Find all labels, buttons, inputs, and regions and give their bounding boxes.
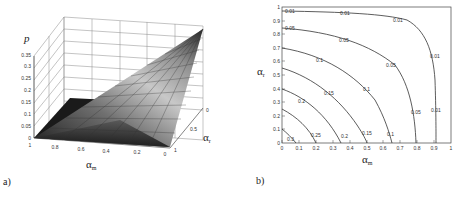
svg-text:0.25: 0.25 [311, 132, 321, 138]
contour-plot: 0 0.1 0.2 0.3 0.4 0.5 0.6 0.7 0.8 0.9 1 … [235, 0, 470, 199]
y-axis-label: αr [257, 65, 265, 78]
svg-text:0.8: 0.8 [52, 144, 59, 150]
z-axis-ticks: 0 0.05 0.1 0.15 0.2 0.25 0.3 0.35 [21, 52, 31, 141]
svg-text:0.15: 0.15 [21, 99, 31, 105]
svg-text:0.3: 0.3 [287, 136, 294, 142]
svg-text:0.05: 0.05 [339, 37, 349, 43]
svg-text:0.05: 0.05 [386, 62, 396, 68]
svg-text:0.01: 0.01 [285, 8, 295, 14]
svg-text:1: 1 [174, 147, 177, 153]
svg-text:0: 0 [281, 145, 284, 151]
svg-text:0.01: 0.01 [340, 10, 350, 16]
svg-text:0.2: 0.2 [273, 113, 280, 119]
svg-text:0.2: 0.2 [298, 98, 305, 104]
svg-text:0.5: 0.5 [190, 126, 197, 132]
svg-text:0.1: 0.1 [24, 111, 31, 117]
x-axis-label: αm [362, 153, 373, 166]
contour-plot-panel: 0 0.1 0.2 0.3 0.4 0.5 0.6 0.7 0.8 0.9 1 … [235, 0, 470, 199]
svg-text:0.05: 0.05 [411, 109, 421, 115]
surface-plot-panel: 0 0.05 0.1 0.15 0.2 0.25 0.3 0.35 1 0.8 … [0, 0, 235, 199]
svg-text:0.2: 0.2 [341, 133, 348, 139]
svg-text:0.5: 0.5 [364, 145, 371, 151]
svg-text:0.05: 0.05 [285, 25, 295, 31]
svg-text:0.35: 0.35 [21, 52, 31, 58]
svg-text:0.6: 0.6 [380, 145, 387, 151]
svg-text:0: 0 [164, 151, 167, 157]
svg-text:0.8: 0.8 [273, 31, 280, 37]
surface-plot: 0 0.05 0.1 0.15 0.2 0.25 0.3 0.35 1 0.8 … [0, 0, 235, 199]
svg-text:0.3: 0.3 [330, 145, 337, 151]
svg-text:0.6: 0.6 [78, 146, 85, 152]
svg-text:0.1: 0.1 [387, 131, 394, 137]
svg-text:0.01: 0.01 [430, 53, 440, 59]
x-axis-label: αm [86, 158, 97, 171]
svg-text:1: 1 [450, 145, 453, 151]
svg-text:0.1: 0.1 [296, 145, 303, 151]
svg-text:0.15: 0.15 [324, 90, 334, 96]
svg-text:0.6: 0.6 [273, 58, 280, 64]
svg-text:0.7: 0.7 [273, 45, 280, 51]
panel-label-a: a) [3, 176, 11, 187]
svg-text:0.2: 0.2 [313, 145, 320, 151]
svg-text:0.2: 0.2 [24, 87, 31, 93]
svg-text:0.05: 0.05 [21, 123, 31, 129]
svg-text:0.01: 0.01 [393, 17, 403, 23]
svg-text:0.7: 0.7 [397, 145, 404, 151]
y-axis-ticks: 0 0.1 0.2 0.3 0.4 0.5 0.6 0.7 0.8 0.9 1 [273, 4, 280, 146]
svg-text:0.5: 0.5 [273, 72, 280, 78]
svg-text:0: 0 [277, 140, 280, 146]
svg-text:0.3: 0.3 [273, 99, 280, 105]
svg-text:0.2: 0.2 [134, 149, 141, 155]
svg-text:0.9: 0.9 [431, 145, 438, 151]
svg-text:0.01: 0.01 [431, 107, 441, 113]
svg-text:0.1: 0.1 [316, 57, 323, 63]
svg-text:0: 0 [28, 135, 31, 141]
y-axis-label: αr [203, 131, 211, 144]
svg-text:0.25: 0.25 [21, 75, 31, 81]
z-axis-label: p [23, 32, 30, 44]
svg-text:0.1: 0.1 [363, 86, 370, 92]
svg-text:0.4: 0.4 [273, 86, 280, 92]
svg-text:1: 1 [29, 142, 32, 148]
svg-text:0.4: 0.4 [103, 148, 110, 154]
svg-text:0.8: 0.8 [414, 145, 421, 151]
svg-text:0.15: 0.15 [362, 130, 372, 136]
svg-text:0.3: 0.3 [24, 63, 31, 69]
svg-text:0.4: 0.4 [347, 145, 354, 151]
svg-text:1: 1 [277, 4, 280, 10]
panel-label-b: b) [256, 175, 264, 186]
svg-text:0.9: 0.9 [273, 18, 280, 24]
svg-text:0.1: 0.1 [273, 126, 280, 132]
x-axis-ticks: 0 0.1 0.2 0.3 0.4 0.5 0.6 0.7 0.8 0.9 1 [281, 145, 453, 151]
svg-text:0: 0 [206, 107, 209, 113]
